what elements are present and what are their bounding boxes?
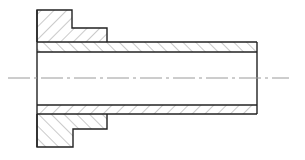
upper-tube-wall-section	[37, 42, 257, 52]
lower-tube-wall-section	[37, 105, 257, 114]
lower-flange-section	[37, 114, 107, 147]
technical-drawing	[0, 0, 305, 160]
